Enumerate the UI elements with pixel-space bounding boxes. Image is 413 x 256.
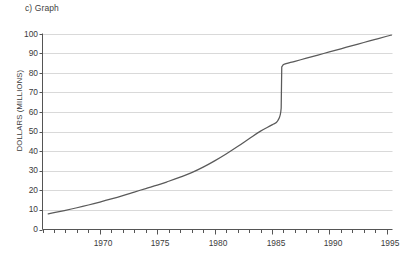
- gridlines: [43, 35, 393, 211]
- plot-area: [0, 0, 413, 256]
- chart-figure: c) Graph DOLLARS (MILLIONS) 100 90 80 70…: [0, 0, 413, 256]
- x-minor-ticks: [44, 230, 388, 235]
- data-series-line: [48, 35, 391, 214]
